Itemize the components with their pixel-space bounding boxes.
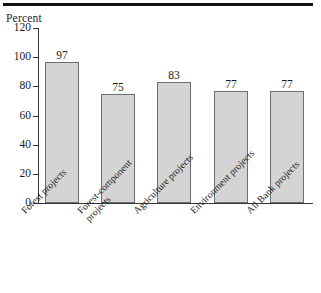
y-tick-label-20: 20 xyxy=(20,168,32,180)
bar-value-label: 77 xyxy=(225,78,237,90)
bar-value-label: 83 xyxy=(168,69,180,81)
y-tick-label-60: 60 xyxy=(20,110,32,122)
bar-value-label: 75 xyxy=(112,81,124,93)
y-tick-label-100: 100 xyxy=(14,51,31,63)
figure-container: Percent 0 20 40 60 80 100 xyxy=(0,0,321,293)
y-tick-label-40: 40 xyxy=(20,139,32,151)
top-rule-divider xyxy=(3,3,313,6)
bar-value-label: 97 xyxy=(56,49,68,61)
y-tick-label-120: 120 xyxy=(14,22,31,34)
y-axis-line xyxy=(38,28,39,204)
y-tick-label-80: 80 xyxy=(20,81,32,93)
bar-value-label: 77 xyxy=(281,78,293,90)
